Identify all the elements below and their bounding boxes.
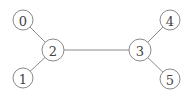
node-label: 1 xyxy=(19,72,27,87)
node-label: 0 xyxy=(19,14,27,29)
node-2: 2 xyxy=(42,39,64,61)
graph-diagram: 012345 xyxy=(0,0,191,95)
node-label: 5 xyxy=(166,73,174,88)
node-label: 2 xyxy=(49,44,57,59)
node-3: 3 xyxy=(129,39,151,61)
node-0: 0 xyxy=(13,10,33,30)
node-label: 3 xyxy=(136,44,144,59)
node-5: 5 xyxy=(160,69,180,89)
node-1: 1 xyxy=(13,68,33,88)
node-label: 4 xyxy=(166,14,174,29)
node-4: 4 xyxy=(160,10,180,30)
